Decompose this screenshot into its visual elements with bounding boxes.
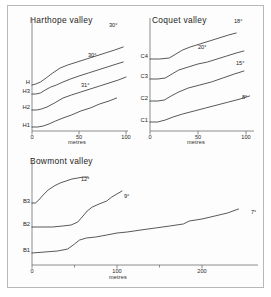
figure-page: Harthope valley H1 H2 H3 H 30° 30° 31° 0… [0, 0, 271, 297]
plot-svg-harthope [8, 6, 134, 146]
chart-panel-harthope: Harthope valley H1 H2 H3 H 30° 30° 31° 0… [8, 6, 134, 146]
plot-svg-coquet [132, 6, 263, 146]
chart-panel-coquet: Coquet valley C1 C2 C3 C4 18° 20° 15° 8°… [132, 6, 263, 146]
figure-frame: Harthope valley H1 H2 H3 H 30° 30° 31° 0… [7, 5, 264, 288]
plot-svg-bowmont [8, 146, 265, 287]
chart-panel-bowmont: Bowmont valley B1 B2 B3 12° 9° 7° 0 100 … [8, 146, 265, 287]
